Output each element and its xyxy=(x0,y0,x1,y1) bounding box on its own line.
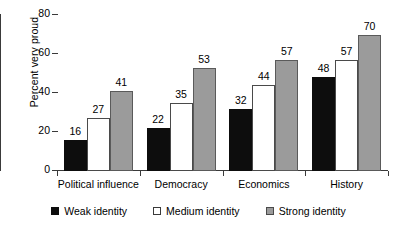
bar-value-label: 57 xyxy=(329,46,364,57)
legend-item: Weak identity xyxy=(51,205,127,217)
y-axis-tick-label: 0 xyxy=(10,164,50,174)
y-axis-tick-label: 80 xyxy=(10,8,50,18)
bar-value-label: 70 xyxy=(352,21,387,32)
bar xyxy=(110,91,133,171)
x-axis-tick xyxy=(140,171,141,176)
bar xyxy=(193,68,216,171)
legend-item: Medium identity xyxy=(153,205,240,217)
bar-value-label: 41 xyxy=(104,77,139,88)
bar xyxy=(335,60,358,171)
bar-value-label: 44 xyxy=(246,71,281,82)
y-axis-tick-label: 40 xyxy=(10,86,50,96)
x-axis-end-tick xyxy=(388,171,389,176)
x-axis-category-label: Political influence xyxy=(57,178,140,190)
bar-value-label: 48 xyxy=(306,63,341,74)
bar xyxy=(312,77,335,171)
bar-value-label: 16 xyxy=(58,126,93,137)
bar xyxy=(64,140,87,171)
bar-chart: Percent very proud 020406080 16274122355… xyxy=(0,0,397,229)
legend-item-label: Medium identity xyxy=(166,205,240,217)
y-axis-line xyxy=(0,14,1,171)
x-axis-category-label: Democracy xyxy=(140,178,223,190)
bar-value-label: 53 xyxy=(187,54,222,65)
x-axis-tick xyxy=(223,171,224,176)
legend-swatch-icon xyxy=(153,207,161,215)
bar-value-label: 22 xyxy=(141,114,176,125)
chart-legend: Weak identityMedium identityStrong ident… xyxy=(0,205,397,217)
bar xyxy=(229,109,252,171)
legend-item: Strong identity xyxy=(266,205,346,217)
bar xyxy=(147,128,170,171)
y-axis-tick-label: 60 xyxy=(10,47,50,57)
legend-item-label: Weak identity xyxy=(64,205,127,217)
bar-value-label: 35 xyxy=(164,89,199,100)
x-axis-category-label: Economics xyxy=(223,178,306,190)
bar-value-label: 27 xyxy=(81,104,116,115)
x-axis-category-label: History xyxy=(305,178,388,190)
x-axis-end-tick xyxy=(57,171,58,176)
y-axis-tick-label: 20 xyxy=(10,125,50,135)
legend-swatch-icon xyxy=(266,207,274,215)
x-axis-tick xyxy=(305,171,306,176)
bars-layer xyxy=(57,14,388,171)
bar xyxy=(170,103,193,171)
legend-item-label: Strong identity xyxy=(279,205,346,217)
bar-value-label: 32 xyxy=(223,95,258,106)
y-axis-title: Percent very proud xyxy=(28,0,40,142)
legend-swatch-icon xyxy=(51,207,59,215)
bar-value-label: 57 xyxy=(269,46,304,57)
